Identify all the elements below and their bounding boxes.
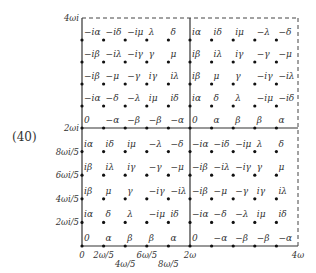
lattice-value: −δ <box>214 209 227 219</box>
lattice-point <box>275 38 278 41</box>
lattice-value: −iγ <box>257 71 273 81</box>
lattice-point <box>188 126 191 129</box>
lattice-point <box>145 82 148 85</box>
lattice-value: iα <box>192 27 201 37</box>
lattice-point <box>232 104 235 107</box>
lattice-value: α <box>214 115 220 125</box>
lattice-value: iγ <box>235 49 244 59</box>
lattice-point <box>80 126 83 129</box>
lattice-value: β <box>256 115 262 125</box>
lattice-point <box>80 197 83 200</box>
x-tick-label: 6ω/5 <box>136 250 157 260</box>
lattice-point <box>102 221 105 224</box>
lattice-point <box>232 174 235 177</box>
lattice-point <box>210 197 213 200</box>
lattice-point <box>124 174 127 177</box>
lattice-point <box>102 60 105 63</box>
lattice-point <box>232 126 235 129</box>
x-tick-label: 4ω/5 <box>114 259 136 269</box>
lattice-value: −λ <box>149 139 162 149</box>
lattice-point <box>80 221 83 224</box>
lattice-point <box>232 244 235 247</box>
lattice-value: −β <box>149 115 162 125</box>
lattice-point <box>275 244 278 247</box>
lattice-point <box>188 244 191 247</box>
lattice-point <box>275 197 278 200</box>
lattice-value: iδ <box>106 139 114 149</box>
lattice-point <box>167 60 170 63</box>
lattice-point <box>232 150 235 153</box>
lattice-value: −iα <box>192 209 209 219</box>
lattice-value: δ <box>278 139 283 149</box>
lattice-value: iδ <box>170 93 178 103</box>
lattice-point <box>253 104 256 107</box>
lattice-point <box>188 104 191 107</box>
y-tick-label: 2ωi <box>63 123 79 133</box>
lattice-point <box>275 104 278 107</box>
lattice-value: iλ <box>214 49 223 59</box>
lattice-value: β <box>126 233 132 243</box>
lattice-value: −iγ <box>149 186 165 196</box>
lattice-point <box>210 104 213 107</box>
lattice-value: μ <box>214 71 220 81</box>
lattice-point <box>275 60 278 63</box>
lattice-point <box>275 174 278 177</box>
lattice-value: −iμ <box>257 93 273 103</box>
lattice-value: −iβ <box>192 186 208 196</box>
x-tick-label: 4ω <box>291 250 304 260</box>
lattice-value: iβ <box>192 71 200 81</box>
lattice-point <box>253 221 256 224</box>
lattice-value: iμ <box>235 27 244 37</box>
lattice-point <box>167 150 170 153</box>
lattice-point <box>232 38 235 41</box>
lattice-point <box>210 82 213 85</box>
lattice-value: −iα <box>84 27 101 37</box>
lattice-point <box>145 174 148 177</box>
lattice-value: −iδ <box>214 139 230 149</box>
lattice-value: γ <box>149 49 155 59</box>
lattice-point <box>253 60 256 63</box>
lattice-point <box>167 221 170 224</box>
y-tick-label: 6ωi/5 <box>56 170 79 180</box>
x-tick-label: 2ω/5 <box>92 250 114 260</box>
lattice-point <box>167 82 170 85</box>
lattice-value: −iμ <box>235 139 251 149</box>
lattice-point <box>253 126 256 129</box>
lattice-point <box>210 60 213 63</box>
lattice-value: iβ <box>84 186 92 196</box>
lattice-point <box>210 221 213 224</box>
lattice-point <box>124 60 127 63</box>
lattice-point <box>124 244 127 247</box>
y-tick-label: 2ωi/5 <box>55 217 79 227</box>
lattice-point <box>102 150 105 153</box>
lattice-value: −α <box>106 115 120 125</box>
lattice-value: −iβ <box>192 162 208 172</box>
lattice-value: iβ <box>192 49 200 59</box>
lattice-value: −μ <box>278 49 292 59</box>
lattice-point <box>275 221 278 224</box>
lattice-point <box>232 60 235 63</box>
lattice-value: μ <box>278 162 284 172</box>
lattice-value: iδ <box>170 209 178 219</box>
lattice-point <box>124 38 127 41</box>
lattice-point <box>102 104 105 107</box>
value-labels: 0αββαiαδλ−iμiδiβμγ−iγ−iλiβiλiγ−γ−μiαiδiμ… <box>84 27 295 243</box>
lattice-value: −iγ <box>235 162 251 172</box>
lattice-value: iλ <box>106 162 115 172</box>
lattice-point <box>253 174 256 177</box>
lattice-point <box>145 126 148 129</box>
lattice-point <box>145 244 148 247</box>
lattice-value: −γ <box>257 49 271 59</box>
lattice-point <box>210 150 213 153</box>
lattice-point <box>124 82 127 85</box>
lattice-value: −iμ <box>149 209 165 219</box>
lattice-point <box>232 221 235 224</box>
lattice-value: δ <box>106 209 111 219</box>
lattice-value: −δ <box>106 93 119 103</box>
lattice-value: −iδ <box>106 27 122 37</box>
lattice-value: β <box>234 115 240 125</box>
lattice-value: α <box>170 233 176 243</box>
lattice-value: −iα <box>192 139 209 149</box>
lattice-value: −β <box>127 115 140 125</box>
lattice-point <box>145 60 148 63</box>
